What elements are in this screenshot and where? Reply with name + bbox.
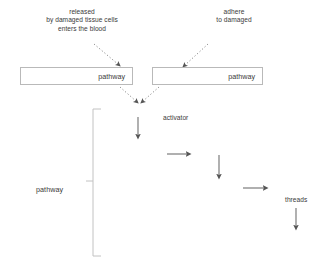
arrow-note-right-to-box <box>184 44 208 66</box>
note-left: released by damaged tissue cells enters … <box>22 8 142 33</box>
activator-label: activator <box>163 114 188 122</box>
note-left-line-3: enters the blood <box>22 25 142 33</box>
arrow-box-right-to-junction <box>142 87 159 102</box>
note-left-line-2: by damaged tissue cells <box>22 16 142 24</box>
common-pathway-label: pathway <box>36 186 63 194</box>
pathway-box-right-label: pathway <box>228 72 262 81</box>
pathway-box-right[interactable]: pathway <box>152 67 263 85</box>
diagram-vector-layer <box>0 0 330 268</box>
threads-label: threads <box>285 196 307 204</box>
pathway-box-left[interactable]: pathway <box>20 67 133 85</box>
note-left-line-1: released <box>22 8 142 16</box>
diagram-canvas: released by damaged tissue cells enters … <box>0 0 330 268</box>
note-right-line-1: adhere <box>196 8 272 16</box>
arrow-note-left-to-box <box>94 44 119 65</box>
note-right-line-2: to damaged <box>196 16 272 24</box>
common-pathway-bracket <box>86 109 101 256</box>
note-right: adhere to damaged <box>196 8 272 25</box>
arrow-box-left-to-junction <box>120 87 137 102</box>
pathway-box-left-label: pathway <box>98 72 132 81</box>
